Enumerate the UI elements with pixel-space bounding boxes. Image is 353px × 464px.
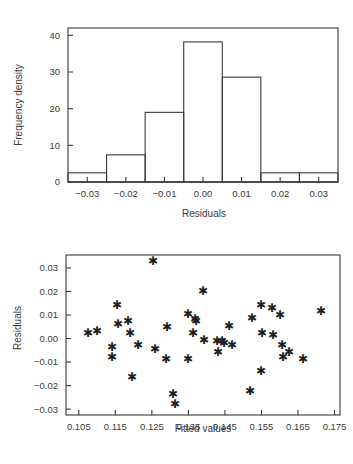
scatter-data-point: ✱ (188, 326, 198, 340)
histogram-x-tick-label: −0.03 (75, 188, 99, 199)
scatter-y-tick-label: 0.03 (40, 262, 59, 273)
scatter-data-point: ✱ (170, 397, 180, 411)
scatter-data-point: ✱ (107, 350, 117, 364)
histogram-y-tick-label: 20 (49, 103, 60, 114)
scatter-data-point: ✱ (112, 298, 122, 312)
scatter-data-point: ✱ (113, 317, 123, 331)
scatter-data-point: ✱ (224, 319, 234, 333)
scatter-data-point: ✱ (148, 254, 158, 268)
scatter-y-tick-label: 0.01 (40, 309, 59, 320)
scatter-data-point: ✱ (199, 333, 209, 347)
scatter-y-tick-label: 0.00 (40, 333, 59, 344)
histogram-x-tick-label: −0.01 (152, 188, 176, 199)
scatter-x-tick-label: 0.125 (140, 421, 164, 432)
histogram-x-tick-label: −0.02 (114, 188, 138, 199)
scatter-data-point: ✱ (227, 338, 237, 352)
scatter-data-point: ✱ (275, 308, 285, 322)
histogram-plot-area: 010203040−0.03−0.02−0.010.000.010.020.03 (49, 28, 338, 199)
scatter-x-tick-label: 0.165 (286, 421, 310, 432)
scatter-data-point: ✱ (256, 298, 266, 312)
histogram-svg: 010203040−0.03−0.02−0.010.000.010.020.03… (0, 0, 353, 232)
histogram-y-tick-label: 40 (49, 30, 60, 41)
histogram-x-tick-label: 0.02 (271, 188, 290, 199)
scatter-data-point: ✱ (284, 345, 294, 359)
scatter-data-point: ✱ (183, 352, 193, 366)
scatter-plot-area: −0.03−0.02−0.010.000.010.020.030.1050.11… (34, 254, 346, 432)
scatter-data-point: ✱ (92, 324, 102, 338)
scatter-data-point: ✱ (162, 320, 172, 334)
scatter-y-tick-label: 0.02 (40, 286, 59, 297)
histogram-y-tick-label: 0 (55, 176, 60, 187)
histogram-x-tick-label: 0.03 (309, 188, 328, 199)
scatter-x-axis-title: Fitted values (175, 423, 232, 434)
scatter-figure: −0.03−0.02−0.010.000.010.020.030.1050.11… (0, 232, 353, 464)
histogram-x-tick-label: 0.00 (194, 188, 213, 199)
scatter-y-tick-label: −0.03 (34, 404, 58, 415)
scatter-data-point: ✱ (133, 338, 143, 352)
histogram-frame (68, 28, 338, 182)
histogram-y-tick-label: 30 (49, 66, 60, 77)
scatter-data-point: ✱ (245, 384, 255, 398)
scatter-data-point: ✱ (298, 352, 308, 366)
scatter-data-point: ✱ (191, 314, 201, 328)
histogram-bar (145, 112, 184, 182)
histogram-bar (222, 77, 261, 182)
histogram-y-tick-label: 10 (49, 140, 60, 151)
scatter-svg: −0.03−0.02−0.010.000.010.020.030.1050.11… (0, 232, 353, 464)
scatter-data-point: ✱ (316, 304, 326, 318)
scatter-y-tick-label: −0.01 (34, 356, 58, 367)
scatter-data-point: ✱ (256, 364, 266, 378)
scatter-x-tick-label: 0.115 (104, 421, 127, 432)
scatter-y-axis-title: Residuals (12, 306, 23, 350)
scatter-data-point: ✱ (127, 370, 137, 384)
histogram-figure: 010203040−0.03−0.02−0.010.000.010.020.03… (0, 0, 353, 232)
scatter-data-point: ✱ (150, 342, 160, 356)
scatter-data-point: ✱ (257, 326, 267, 340)
scatter-data-point: ✱ (247, 311, 257, 325)
scatter-y-tick-label: −0.02 (34, 380, 58, 391)
histogram-x-axis-title: Residuals (182, 208, 226, 219)
scatter-data-point: ✱ (198, 284, 208, 298)
scatter-x-tick-label: 0.155 (250, 421, 274, 432)
histogram-y-axis-title: Frequency density (13, 64, 24, 146)
scatter-data-point: ✱ (161, 352, 171, 366)
histogram-x-tick-label: 0.01 (232, 188, 251, 199)
histogram-bar (184, 42, 223, 182)
scatter-x-tick-label: 0.105 (67, 421, 91, 432)
scatter-x-tick-label: 0.175 (323, 421, 347, 432)
